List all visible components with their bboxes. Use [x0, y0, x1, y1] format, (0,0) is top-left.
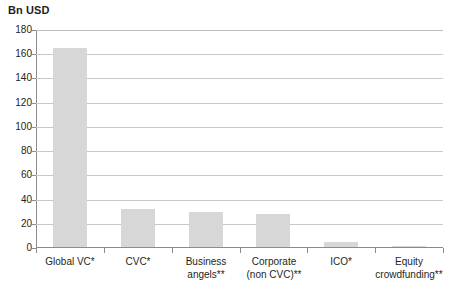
- x-category-label: Corporate(non CVC)**: [240, 256, 308, 281]
- x-category-label: CVC*: [104, 256, 172, 269]
- y-tick-label: 40: [2, 195, 32, 205]
- bars-layer: [36, 30, 443, 248]
- x-category-label: Equitycrowdfunding**: [375, 256, 443, 281]
- x-category-label: Global VC*: [36, 256, 104, 269]
- y-tick-label: 0: [2, 243, 32, 253]
- x-axis-tick-marks: [36, 248, 444, 254]
- x-label-line: ICO*: [307, 256, 375, 269]
- x-tick-mark: [36, 248, 37, 253]
- y-tick-label: 180: [2, 25, 32, 35]
- y-axis-tick-labels: 020406080100120140160180: [0, 30, 32, 249]
- x-category-label: Businessangels**: [172, 256, 240, 281]
- x-category-label: ICO*: [307, 256, 375, 269]
- x-tick-mark: [172, 248, 173, 253]
- x-label-line: crowdfunding**: [375, 269, 443, 282]
- bar-chart: Bn USD 020406080100120140160180 Global V…: [0, 0, 452, 293]
- y-tick-label: 80: [2, 146, 32, 156]
- y-tick-label: 100: [2, 122, 32, 132]
- y-axis-unit-title: Bn USD: [8, 4, 50, 17]
- x-tick-mark: [240, 248, 241, 253]
- x-tick-mark: [375, 248, 376, 253]
- x-label-line: angels**: [172, 269, 240, 282]
- plot-area: [36, 30, 443, 248]
- bar: [189, 212, 223, 247]
- y-tick-label: 120: [2, 98, 32, 108]
- x-label-line: Corporate: [240, 256, 308, 269]
- x-tick-mark: [104, 248, 105, 253]
- x-axis-category-labels: Global VC*CVC*Businessangels**Corporate(…: [36, 256, 443, 290]
- x-label-line: CVC*: [104, 256, 172, 269]
- x-label-line: Business: [172, 256, 240, 269]
- x-label-line: Equity: [375, 256, 443, 269]
- bar: [256, 214, 290, 247]
- y-tick-label: 20: [2, 219, 32, 229]
- y-tick-label: 60: [2, 170, 32, 180]
- y-tick-label: 140: [2, 73, 32, 83]
- bar: [121, 209, 155, 247]
- x-label-line: (non CVC)**: [240, 269, 308, 282]
- x-tick-mark: [307, 248, 308, 253]
- x-tick-mark: [443, 248, 444, 253]
- bar: [53, 48, 87, 247]
- x-label-line: Global VC*: [36, 256, 104, 269]
- y-tick-label: 160: [2, 49, 32, 59]
